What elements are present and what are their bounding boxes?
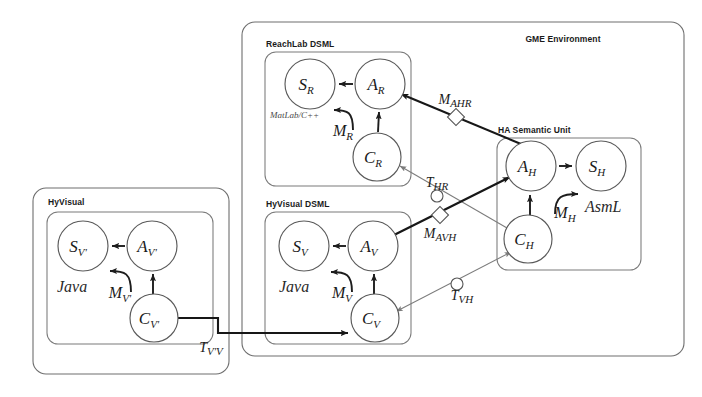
- edge-cvprime-to-cv: [178, 318, 348, 333]
- language-label-matlab: MatLab/C++: [269, 110, 319, 120]
- mapping-label-m-h: MH: [553, 204, 576, 224]
- hyvisual-label: HyVisual: [48, 197, 85, 207]
- edge-cr-to-ar: [378, 112, 379, 132]
- mapping-label-m-vprime: MV': [108, 284, 132, 304]
- transform-label-t-vh: TVH: [451, 288, 475, 305]
- hyvisual-dsml-label: HyVisual DSML: [266, 199, 330, 209]
- edge-ch-to-cr: [400, 166, 507, 228]
- mapping-label-m-v: MV: [331, 284, 353, 304]
- mapping-label-m-r: MR: [332, 122, 353, 142]
- gme-environment-label: GME Environment: [525, 34, 600, 44]
- language-label-asml: AsmL: [584, 198, 622, 215]
- transform-label-m-avh: MAVH: [423, 226, 458, 243]
- marker-diamond-m-ahr[interactable]: [448, 109, 465, 126]
- transform-label-t-hr: THR: [426, 175, 449, 192]
- ha-semantic-unit-label: HA Semantic Unit: [498, 125, 571, 135]
- edge-av-to-ah: [394, 177, 510, 235]
- model-integration-diagram: GME Environment HyVisual ReachLab DSML H…: [0, 0, 702, 397]
- diagram-canvas: GME Environment HyVisual ReachLab DSML H…: [0, 0, 702, 397]
- transform-label-t-vprime-v: TV'V: [199, 340, 224, 357]
- transform-label-m-ahr: MAHR: [437, 92, 471, 109]
- reachlab-dsml-label: ReachLab DSML: [266, 39, 334, 49]
- language-label-java-vprime: Java: [57, 278, 87, 295]
- language-label-java-v: Java: [279, 278, 309, 295]
